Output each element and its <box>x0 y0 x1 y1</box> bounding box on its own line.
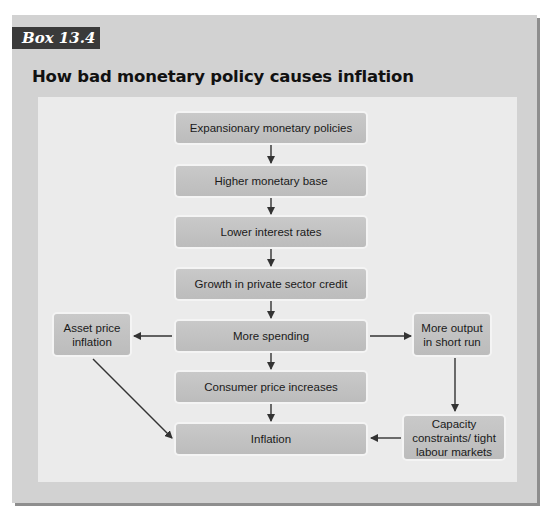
node-more-spending: More spending <box>176 321 366 351</box>
node-asset-price-inflation: Asset price inflation <box>54 314 130 355</box>
diagram-title: How bad monetary policy causes inflation <box>32 67 414 86</box>
node-capacity-constraints: Capacity constraints/ tight labour marke… <box>404 416 504 459</box>
node-more-output-short-run: More output in short run <box>414 314 490 355</box>
node-lower-interest-rates: Lower interest rates <box>176 217 366 247</box>
box-number-label: Box 13.4 <box>12 27 100 49</box>
node-higher-monetary-base: Higher monetary base <box>176 166 366 196</box>
node-consumer-price-increases: Consumer price increases <box>176 372 366 402</box>
node-inflation: Inflation <box>176 424 366 454</box>
node-private-credit-growth: Growth in private sector credit <box>176 269 366 299</box>
node-expansionary-monetary-policies: Expansionary monetary policies <box>176 113 366 143</box>
